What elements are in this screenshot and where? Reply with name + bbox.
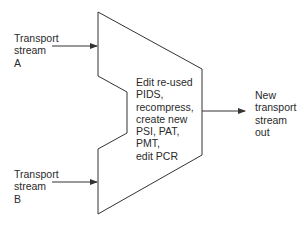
output-line-2: transport	[255, 101, 296, 113]
output-line-3: stream	[255, 114, 296, 126]
input-b-line-1: Transport	[14, 168, 59, 180]
process-line-6: PMT,	[136, 137, 194, 149]
process-line-7: edit PCR	[136, 150, 194, 162]
process-label: Edit re-used PIDS, recompress, create ne…	[136, 76, 194, 162]
process-line-1: Edit re-used	[136, 76, 194, 88]
input-a-label: Transport stream A	[14, 32, 59, 69]
input-a-line-1: Transport	[14, 32, 59, 44]
process-line-3: recompress,	[136, 101, 194, 113]
input-a-line-3: A	[14, 57, 59, 69]
process-line-5: PSI, PAT,	[136, 125, 194, 137]
output-line-1: New	[255, 89, 296, 101]
output-line-4: out	[255, 126, 296, 138]
process-line-2: PIDS,	[136, 88, 194, 100]
input-a-line-2: stream	[14, 44, 59, 56]
process-line-4: create new	[136, 113, 194, 125]
input-b-label: Transport stream B	[14, 168, 59, 205]
input-b-line-3: B	[14, 193, 59, 205]
input-b-line-2: stream	[14, 180, 59, 192]
output-label: New transport stream out	[255, 89, 296, 138]
